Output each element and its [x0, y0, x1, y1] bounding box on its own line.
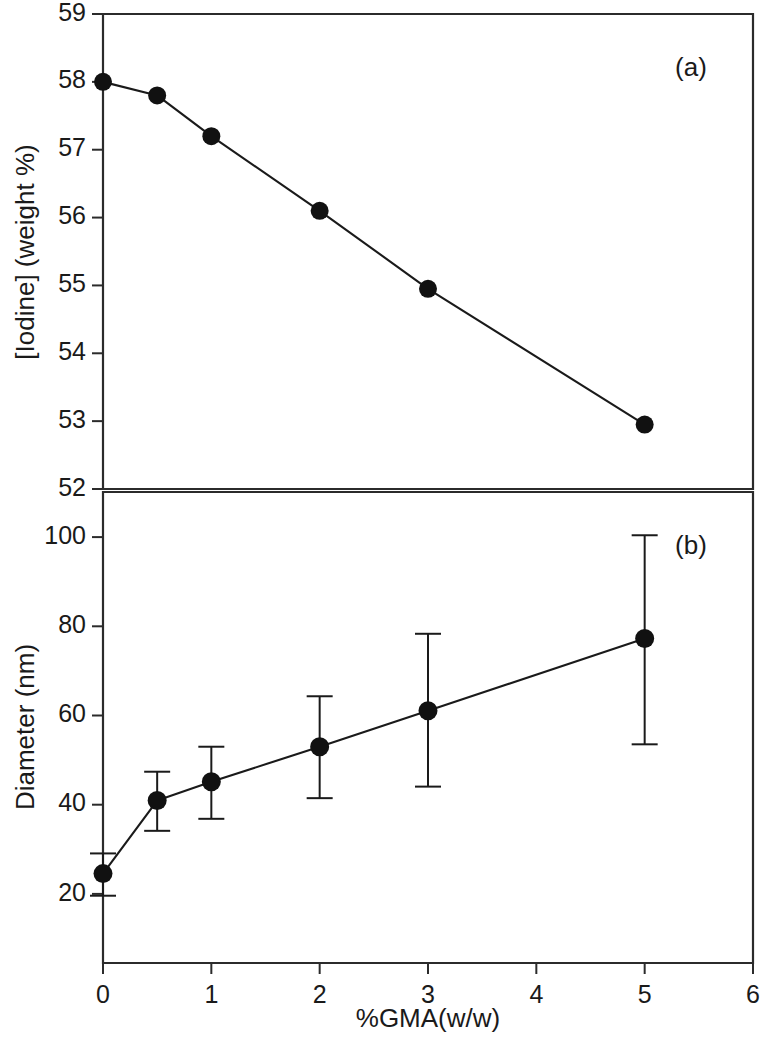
data-point-marker: [148, 86, 166, 104]
data-point-marker: [148, 791, 167, 810]
data-point-marker: [94, 73, 112, 91]
panel-b-ytick-label: 60: [58, 699, 86, 727]
panel-b-series-line: [103, 639, 645, 874]
data-point-marker: [310, 737, 329, 756]
panel-b-y-axis-title: Diameter (nm): [10, 644, 40, 810]
panel-a-data-points: [94, 73, 654, 434]
data-point-marker: [202, 127, 220, 145]
panel-b-data-points: [94, 629, 655, 883]
panel-b-ytick-label: 40: [58, 788, 86, 816]
data-point-marker: [635, 629, 654, 648]
data-point-marker: [419, 701, 438, 720]
data-point-marker: [202, 772, 221, 791]
x-tick-label: 2: [313, 980, 327, 1008]
x-tick-label: 0: [96, 980, 110, 1008]
panel-a-ytick-label: 54: [58, 337, 86, 365]
data-point-marker: [94, 864, 113, 883]
panel-a-ytick-label: 55: [58, 269, 86, 297]
data-point-marker: [419, 280, 437, 298]
x-tick-label: 6: [746, 980, 760, 1008]
panel-a-series-line: [103, 82, 645, 425]
panel-b-label: (b): [675, 530, 707, 560]
panel-a-ytick-label: 58: [58, 65, 86, 93]
panel-b-y-ticks: [92, 537, 103, 894]
panel-b-x-ticks: [103, 963, 753, 974]
panel-a: 59 58 57 56 55 54 53 52 [Iodine] (weight…: [10, 0, 753, 501]
panel-a-ytick-label: 59: [58, 0, 86, 26]
x-tick-label: 4: [529, 980, 543, 1008]
data-point-marker: [311, 202, 329, 220]
data-point-marker: [636, 416, 654, 434]
panel-b-ytick-label: 20: [58, 878, 86, 906]
panel-a-ytick-label: 56: [58, 201, 86, 229]
x-tick-label: 1: [204, 980, 218, 1008]
panel-b-error-bars: [90, 535, 658, 895]
panel-a-plot-frame: [103, 14, 753, 489]
panel-a-ytick-label: 57: [58, 133, 86, 161]
panel-b-ytick-label: 100: [44, 521, 86, 549]
panel-b: 100 80 60 40 20 Diameter (nm) 0123456 (b…: [10, 492, 760, 1008]
x-tick-label: 5: [638, 980, 652, 1008]
figure-container: 59 58 57 56 55 54 53 52 [Iodine] (weight…: [0, 0, 776, 1050]
panel-b-ytick-label: 80: [58, 610, 86, 638]
panel-a-y-axis-title: [Iodine] (weight %): [10, 144, 40, 359]
two-panel-figure: 59 58 57 56 55 54 53 52 [Iodine] (weight…: [0, 0, 776, 1050]
panel-a-ytick-label: 52: [58, 473, 86, 501]
x-axis-title: %GMA(w/w): [356, 1003, 500, 1033]
panel-a-label: (a): [675, 52, 707, 82]
panel-a-ytick-label: 53: [58, 405, 86, 433]
